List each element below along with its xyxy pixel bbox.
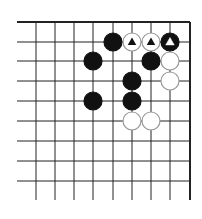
white-stone[interactable] bbox=[161, 52, 179, 70]
white-stone[interactable] bbox=[142, 112, 160, 130]
black-stone[interactable] bbox=[123, 72, 141, 90]
black-stone[interactable] bbox=[84, 52, 102, 70]
black-stone[interactable] bbox=[84, 92, 102, 110]
white-stone[interactable] bbox=[161, 72, 179, 90]
black-stone[interactable] bbox=[104, 33, 122, 51]
black-stone[interactable] bbox=[123, 92, 141, 110]
black-stone[interactable] bbox=[142, 52, 160, 70]
white-stone[interactable] bbox=[123, 112, 141, 130]
go-board bbox=[0, 0, 202, 219]
